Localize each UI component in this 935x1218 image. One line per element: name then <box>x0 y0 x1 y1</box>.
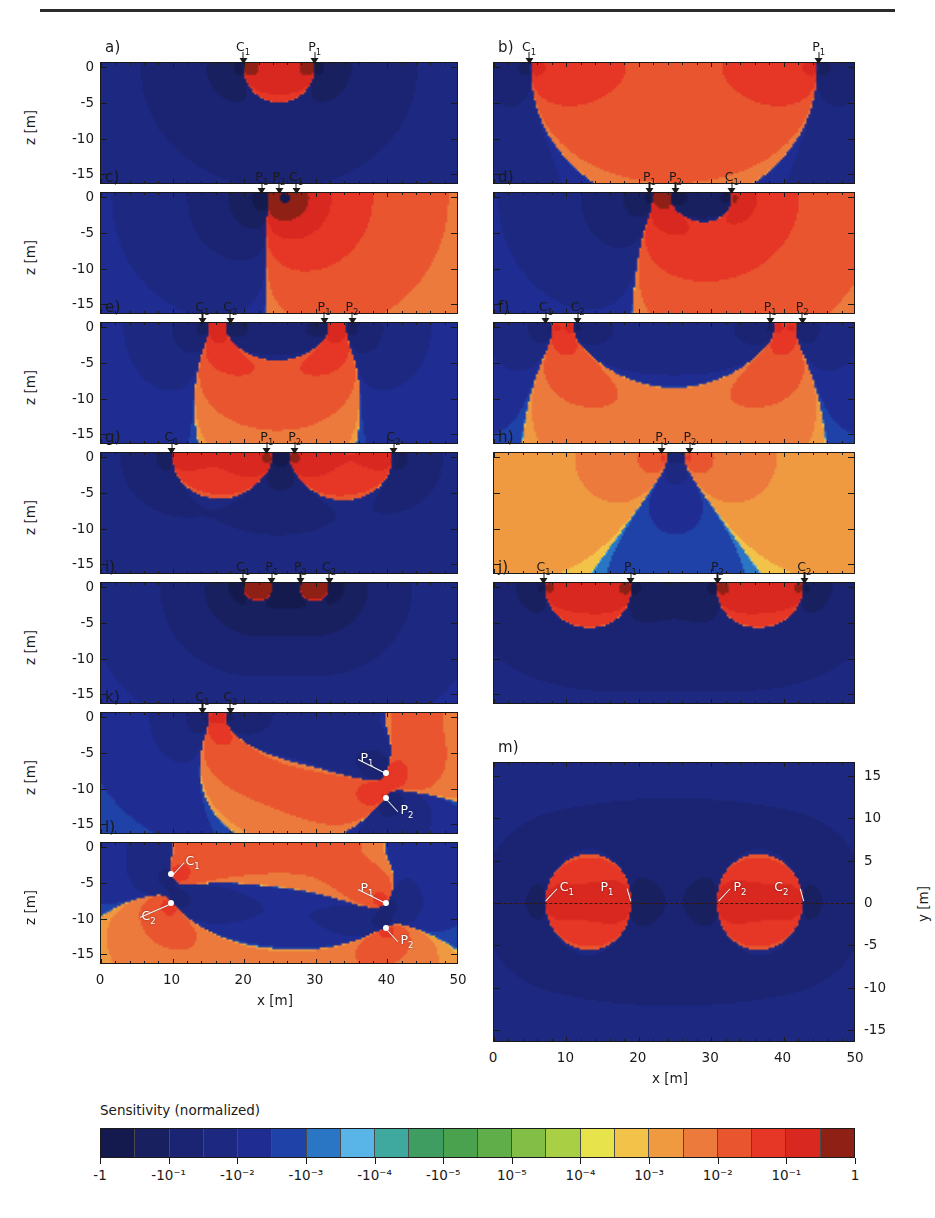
xtick-minor <box>144 193 145 195</box>
x-tick-label: 10 <box>557 1049 574 1065</box>
xtick-minor <box>595 453 596 455</box>
colorbar-tick <box>443 1158 444 1164</box>
xtick <box>244 843 245 847</box>
z-tick-label: 0 <box>85 58 94 74</box>
xtick-minor <box>115 961 116 963</box>
xtick-minor <box>373 583 374 585</box>
xtick-minor <box>344 193 345 195</box>
xtick-minor <box>682 193 683 195</box>
ytick <box>848 861 854 862</box>
xtick <box>639 193 640 197</box>
electrode-arrow-P1 <box>310 52 319 64</box>
ytick <box>451 694 457 695</box>
xtick-minor <box>842 181 843 183</box>
xtick-minor <box>537 441 538 443</box>
electrode-arrow-P1 <box>766 312 775 324</box>
x-tick-label: 50 <box>846 1049 863 1065</box>
xtick-minor <box>653 311 654 313</box>
xtick-minor <box>430 583 431 585</box>
xtick-minor <box>287 453 288 455</box>
xtick-minor <box>755 63 756 65</box>
xtick-minor <box>115 843 116 845</box>
ytick <box>451 919 457 920</box>
colorbar-swatch <box>786 1129 820 1157</box>
xtick <box>101 713 102 717</box>
electrode-arrow-C1 <box>239 52 248 64</box>
xtick <box>244 309 245 313</box>
xtick-minor <box>301 831 302 833</box>
xtick-minor <box>445 181 446 183</box>
ytick <box>101 587 107 588</box>
xtick-minor <box>798 181 799 183</box>
xtick-minor <box>726 583 727 585</box>
colorbar-tick-label: -10⁻² <box>220 1167 255 1183</box>
xtick-minor <box>682 701 683 703</box>
xtick <box>101 309 102 313</box>
electrode-arrow-C1 <box>727 182 736 194</box>
ytick <box>848 233 854 234</box>
xtick-minor <box>344 701 345 703</box>
xtick-minor <box>697 181 698 183</box>
panel-letter-f: f) <box>498 298 510 316</box>
xtick-minor <box>813 453 814 455</box>
xtick-minor <box>230 583 231 585</box>
xtick-minor <box>287 831 288 833</box>
colorbar-swatch <box>135 1129 169 1157</box>
xtick-minor <box>216 63 217 65</box>
ytick <box>101 457 107 458</box>
ytick <box>451 587 457 588</box>
ytick <box>494 67 500 68</box>
sensitivity-field <box>101 193 457 313</box>
z-tick-label: -10 <box>72 130 94 146</box>
xtick-minor <box>508 583 509 585</box>
xtick-minor <box>552 453 553 455</box>
xtick <box>566 763 567 767</box>
xtick-minor <box>287 63 288 65</box>
xtick-minor <box>653 63 654 65</box>
xtick-minor <box>158 193 159 195</box>
xtick-minor <box>668 583 669 585</box>
xtick-minor <box>755 181 756 183</box>
electrode-arrow-P1 <box>645 182 654 194</box>
xtick-minor <box>581 181 582 183</box>
xtick-minor <box>416 181 417 183</box>
xtick-minor <box>755 311 756 313</box>
ytick <box>848 529 854 530</box>
ytick <box>494 197 500 198</box>
xtick-minor <box>827 763 828 765</box>
ytick <box>848 363 854 364</box>
ytick <box>451 717 457 718</box>
electrode-arrow-C1 <box>525 52 534 64</box>
electrode-arrow-P2 <box>671 182 680 194</box>
xtick <box>173 569 174 573</box>
xtick-minor <box>798 1039 799 1041</box>
ytick <box>101 623 107 624</box>
colorbar-swatch <box>546 1129 580 1157</box>
ytick <box>848 903 854 904</box>
xtick <box>784 569 785 573</box>
colorbar-tick-label: 10⁻³ <box>634 1167 664 1183</box>
xtick-minor <box>581 701 582 703</box>
colorbar-swatches <box>100 1128 855 1158</box>
xtick-minor <box>273 453 274 455</box>
xtick <box>711 193 712 197</box>
ytick <box>494 623 500 624</box>
xtick <box>173 179 174 183</box>
xtick-minor <box>273 961 274 963</box>
xtick <box>316 843 317 847</box>
xtick <box>173 713 174 717</box>
xtick <box>784 323 785 327</box>
xtick-minor <box>624 1039 625 1041</box>
colorbar-title: Sensitivity (normalized) <box>100 1102 260 1118</box>
xtick-minor <box>755 441 756 443</box>
xtick <box>101 583 102 587</box>
electrode-arrow-P1 <box>267 572 276 584</box>
z-tick-label: -5 <box>81 614 94 630</box>
xtick-minor <box>201 453 202 455</box>
ytick <box>101 233 107 234</box>
xtick-minor <box>624 701 625 703</box>
xtick-minor <box>230 843 231 845</box>
x-tick-label: 40 <box>378 971 395 987</box>
colorbar-swatch <box>512 1129 546 1157</box>
xtick-minor <box>130 583 131 585</box>
